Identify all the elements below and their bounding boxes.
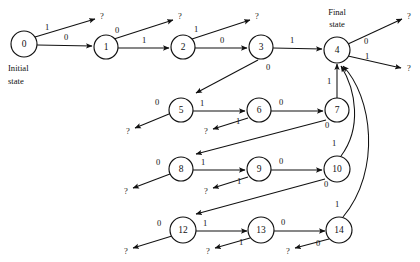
edge-label-12-terminal-0: 0 bbox=[157, 218, 161, 228]
terminal-marker-4a: ? bbox=[407, 11, 411, 21]
edge-label-3-to-4: 1 bbox=[290, 35, 294, 45]
state-node-3[interactable]: 3 bbox=[249, 35, 273, 59]
edge-label-3-terminal-0: 0 bbox=[266, 62, 270, 72]
final-state-label-line2: state bbox=[329, 19, 345, 29]
edge-label-12-to-13: 1 bbox=[203, 218, 207, 228]
edge-13-terminal-1 bbox=[215, 238, 250, 248]
state-node-14-label: 14 bbox=[334, 225, 344, 235]
terminal-marker-4b: ? bbox=[407, 63, 411, 73]
edge-12-terminal-0 bbox=[133, 236, 172, 248]
edge-8-terminal-0 bbox=[133, 174, 170, 188]
state-node-9-label: 9 bbox=[257, 164, 262, 174]
edge-0-to-1 bbox=[37, 45, 92, 46]
final-state-label-line1: Final bbox=[328, 7, 346, 17]
edge-label-6-terminal-1: 1 bbox=[236, 116, 240, 126]
terminal-marker-8: ? bbox=[124, 186, 128, 196]
edge-label-8-terminal-0: 0 bbox=[156, 157, 160, 167]
state-node-4-label: 4 bbox=[335, 45, 340, 55]
state-node-13[interactable]: 13 bbox=[248, 217, 274, 243]
state-node-7-label: 7 bbox=[335, 105, 340, 115]
state-node-0[interactable]: 0 bbox=[11, 31, 37, 57]
edge-14-terminal-0 bbox=[295, 239, 329, 248]
edge-label-2-to-3: 0 bbox=[220, 35, 224, 45]
terminal-marker-5: ? bbox=[126, 126, 130, 136]
edge-label-7-terminal-0: 0 bbox=[325, 120, 329, 130]
edge-label-9-terminal-1: 1 bbox=[237, 176, 241, 186]
edge-label-9-to-10: 0 bbox=[279, 156, 283, 166]
edge-9-terminal-1 bbox=[213, 177, 248, 188]
terminal-marker-12: ? bbox=[124, 246, 128, 256]
terminal-marker-13: ? bbox=[206, 246, 210, 256]
edge-label-1-to-2: 1 bbox=[142, 35, 146, 45]
edge-label-14-to-4: 1 bbox=[335, 199, 339, 209]
state-node-12-label: 12 bbox=[178, 225, 188, 235]
edge-label-13-terminal-1: 1 bbox=[239, 237, 243, 247]
state-node-10-label: 10 bbox=[332, 164, 342, 174]
state-node-6-label: 6 bbox=[257, 105, 262, 115]
edge-10-terminal-0 bbox=[196, 179, 325, 214]
state-node-0-label: 0 bbox=[22, 39, 27, 49]
state-node-6[interactable]: 6 bbox=[247, 98, 271, 122]
edge-label-8-to-9: 1 bbox=[201, 157, 205, 167]
state-node-4[interactable]: 4 bbox=[324, 37, 350, 63]
state-node-5-label: 5 bbox=[179, 105, 184, 115]
state-diagram-canvas: 0 1 2 3 4 5 6 bbox=[0, 0, 420, 262]
edge-14-to-4 bbox=[343, 66, 369, 217]
edge-label-13-to-14: 0 bbox=[281, 217, 285, 227]
terminal-marker-6: ? bbox=[204, 126, 208, 136]
state-node-12[interactable]: 12 bbox=[170, 217, 196, 243]
state-node-13-label: 13 bbox=[256, 225, 266, 235]
edge-label-10-terminal-0: 0 bbox=[324, 179, 328, 189]
edge-3-to-4 bbox=[273, 48, 322, 49]
edge-label-2-terminal-1: 1 bbox=[194, 24, 198, 34]
state-node-1[interactable]: 1 bbox=[94, 35, 118, 59]
edge-label-14-terminal-0: 0 bbox=[316, 238, 320, 248]
terminal-marker-2: ? bbox=[255, 11, 259, 21]
edge-7-terminal-0 bbox=[196, 120, 326, 154]
state-node-7[interactable]: 7 bbox=[325, 98, 349, 122]
state-node-1-label: 1 bbox=[104, 42, 109, 52]
state-node-8-label: 8 bbox=[179, 164, 184, 174]
state-node-8[interactable]: 8 bbox=[169, 157, 193, 181]
initial-state-label-line1: Initial bbox=[8, 63, 29, 73]
state-node-3-label: 3 bbox=[259, 42, 264, 52]
state-machine-diagram: 0 1 2 3 4 5 6 bbox=[0, 0, 420, 262]
edge-label-10-to-4: 1 bbox=[332, 138, 336, 148]
state-node-9[interactable]: 9 bbox=[247, 157, 271, 181]
edge-label-4-terminal-0: 0 bbox=[364, 36, 368, 46]
edge-label-0-terminal-1: 1 bbox=[45, 22, 49, 32]
edge-4-terminal-0 bbox=[348, 19, 402, 44]
terminal-marker-0: ? bbox=[100, 11, 104, 21]
edge-label-7-to-4: 1 bbox=[327, 76, 331, 86]
edge-label-4-terminal-1: 1 bbox=[365, 51, 369, 61]
edge-label-5-terminal-0: 0 bbox=[155, 97, 159, 107]
state-node-5[interactable]: 5 bbox=[169, 98, 193, 122]
edge-6-terminal-1 bbox=[213, 118, 248, 129]
nodes-layer: 0 1 2 3 4 5 6 bbox=[11, 31, 352, 243]
initial-state-label-line2: state bbox=[8, 76, 24, 86]
edge-4-terminal-1 bbox=[348, 56, 401, 68]
edge-label-0-to-1: 0 bbox=[64, 32, 68, 42]
edge-label-1-terminal-0: 0 bbox=[115, 25, 119, 35]
terminal-marker-9: ? bbox=[204, 186, 208, 196]
edge-label-6-to-7: 0 bbox=[279, 97, 283, 107]
state-node-2-label: 2 bbox=[181, 42, 186, 52]
terminal-marker-1: ? bbox=[178, 11, 182, 21]
edge-5-terminal-0 bbox=[135, 114, 169, 128]
edge-3-terminal-0 bbox=[196, 60, 258, 93]
state-node-14[interactable]: 14 bbox=[326, 217, 352, 243]
state-node-2[interactable]: 2 bbox=[171, 35, 195, 59]
edge-label-5-to-6: 1 bbox=[200, 98, 204, 108]
terminal-marker-14: ? bbox=[286, 246, 290, 256]
